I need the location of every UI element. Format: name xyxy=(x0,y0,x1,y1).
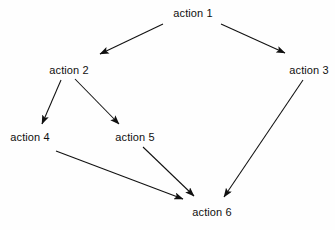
edge-arrow-e6 xyxy=(143,147,194,196)
edge-arrow-e1 xyxy=(100,24,163,54)
edge-arrow-e4 xyxy=(75,79,119,124)
edge-arrow-e7 xyxy=(224,80,303,197)
node-label-action2: action 2 xyxy=(49,64,88,77)
node-label-action3: action 3 xyxy=(289,64,328,77)
edge-group xyxy=(42,24,303,199)
node-label-action4: action 4 xyxy=(10,131,49,144)
node-label-action5: action 5 xyxy=(115,131,154,144)
edge-layer xyxy=(0,0,335,230)
node-label-action1: action 1 xyxy=(173,7,212,20)
edge-arrow-e2 xyxy=(221,24,285,53)
node-label-action6: action 6 xyxy=(192,206,231,219)
edge-arrow-e5 xyxy=(56,151,183,199)
edge-arrow-e3 xyxy=(42,80,61,124)
action-graph-diagram: action 1action 2action 3action 4action 5… xyxy=(0,0,335,230)
